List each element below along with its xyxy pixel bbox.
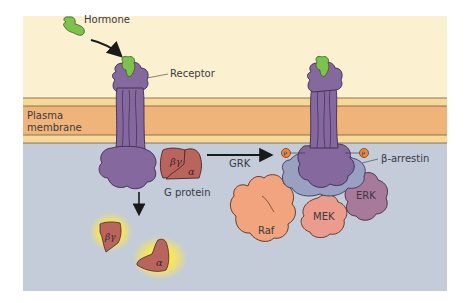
phosphate-label: P bbox=[284, 150, 288, 157]
grk-label: GRK bbox=[229, 158, 251, 169]
g-protein-complex: βγ α bbox=[160, 148, 201, 179]
membrane-outer-leaflet bbox=[23, 98, 447, 106]
plasma-membrane-label: Plasma bbox=[27, 110, 63, 121]
phosphate-label: P bbox=[362, 150, 366, 157]
hormone-label: Hormone bbox=[84, 14, 130, 25]
beta-arrestin-label: β-arrestin bbox=[381, 153, 429, 164]
membrane-core bbox=[23, 106, 447, 135]
mek-label: MEK bbox=[313, 211, 335, 222]
raf-label: Raf bbox=[258, 225, 275, 236]
alpha-active-label: α bbox=[156, 257, 163, 268]
membrane-inner-leaflet bbox=[23, 135, 447, 143]
plasma-membrane-label: membrane bbox=[27, 122, 82, 133]
g-protein-label: G protein bbox=[164, 187, 210, 198]
receptor-label: Receptor bbox=[170, 68, 216, 79]
alpha-label: α bbox=[188, 166, 195, 177]
receptor-transmembrane-domain bbox=[116, 88, 145, 150]
gpcr-signaling-diagram: Plasma membrane Hormone Receptor βγ α G … bbox=[0, 0, 468, 303]
extracellular-space bbox=[23, 16, 447, 98]
beta-gamma-active-label: βγ bbox=[104, 232, 116, 242]
erk-label: ERK bbox=[356, 190, 376, 201]
beta-gamma-label: βγ bbox=[169, 156, 182, 167]
